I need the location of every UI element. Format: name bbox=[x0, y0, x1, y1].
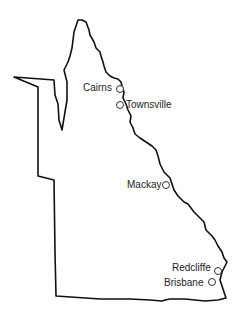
city-label-cairns: Cairns bbox=[83, 82, 112, 94]
city-label-townsville: Townsville bbox=[126, 99, 172, 111]
city-marker-redcliffe[interactable] bbox=[214, 267, 222, 275]
city-marker-townsville[interactable] bbox=[116, 101, 124, 109]
state-outline bbox=[14, 20, 227, 301]
city-marker-cairns[interactable] bbox=[116, 85, 124, 93]
city-label-brisbane: Brisbane bbox=[164, 277, 203, 289]
city-marker-mackay[interactable] bbox=[162, 181, 170, 189]
city-label-redcliffe: Redcliffe bbox=[172, 262, 211, 274]
city-marker-brisbane[interactable] bbox=[208, 278, 216, 286]
city-label-mackay: Mackay bbox=[127, 179, 161, 191]
